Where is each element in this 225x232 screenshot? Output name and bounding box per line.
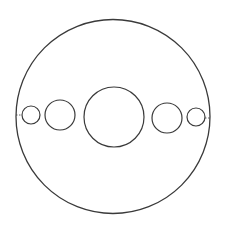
circle-medium-right [152,103,182,133]
inner-circles-group [22,87,205,147]
circle-diagram [0,0,225,232]
circle-center [84,87,144,147]
circle-medium-left [45,100,75,130]
circle-small-left [22,106,40,124]
circle-small-right [187,108,205,126]
